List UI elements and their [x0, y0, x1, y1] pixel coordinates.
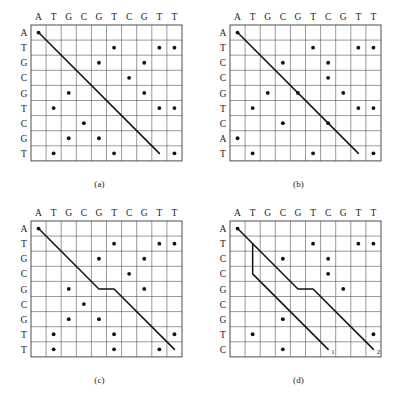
- row-label-b-4: G: [220, 89, 227, 99]
- match-dot: [52, 347, 56, 351]
- row-label-d-8: C: [220, 345, 226, 355]
- column-label-d-7: G: [340, 208, 347, 218]
- match-dot: [251, 106, 255, 110]
- match-dot: [251, 332, 255, 336]
- main-diagonal: [39, 33, 160, 154]
- match-dot: [142, 257, 146, 261]
- match-dot: [112, 46, 116, 50]
- panel-d: ATGCGTCGTTATCCGCGTC12(d): [199, 196, 398, 392]
- match-dot: [157, 106, 161, 110]
- row-label-b-5: T: [220, 104, 226, 114]
- path-end-label-2: 2: [377, 348, 381, 356]
- column-label-b-5: T: [310, 12, 316, 22]
- match-dot: [97, 317, 101, 321]
- column-label-c-2: G: [65, 208, 72, 218]
- row-label-d-3: C: [220, 269, 226, 279]
- match-dot: [173, 151, 177, 155]
- column-label-a-1: T: [51, 12, 57, 22]
- row-label-b-0: A: [220, 28, 227, 38]
- match-dot: [97, 136, 101, 140]
- match-dot: [173, 242, 177, 246]
- column-label-c-8: T: [156, 208, 162, 218]
- column-label-d-1: T: [250, 208, 256, 218]
- match-dot: [127, 76, 131, 80]
- column-label-b-2: G: [264, 12, 271, 22]
- match-dot: [52, 151, 56, 155]
- dotplot-matrix-d: ATGCGTCGTTATCCGCGTC12: [199, 196, 398, 374]
- column-label-c-6: C: [126, 208, 132, 218]
- column-label-b-8: T: [355, 12, 361, 22]
- row-label-d-0: A: [220, 224, 227, 234]
- row-label-c-6: G: [21, 315, 28, 325]
- column-label-b-4: G: [295, 12, 302, 22]
- match-dot: [372, 46, 376, 50]
- match-dot: [97, 61, 101, 65]
- match-dot: [67, 91, 71, 95]
- column-label-d-8: T: [355, 208, 361, 218]
- match-dot: [326, 257, 330, 261]
- match-dot: [52, 106, 56, 110]
- row-label-a-2: G: [21, 58, 28, 68]
- column-label-a-8: T: [156, 12, 162, 22]
- column-label-d-2: G: [264, 208, 271, 218]
- row-label-d-7: T: [220, 330, 226, 340]
- main-diagonal: [238, 33, 359, 154]
- match-dot: [356, 106, 360, 110]
- dotplot-matrix-b: ATGCGTCGTTATCCGTCAT: [199, 0, 398, 178]
- match-dot: [142, 61, 146, 65]
- match-dot: [341, 91, 345, 95]
- match-dot: [281, 121, 285, 125]
- match-dot: [157, 242, 161, 246]
- match-dot: [67, 136, 71, 140]
- match-dot: [266, 91, 270, 95]
- column-label-a-5: T: [111, 12, 117, 22]
- row-label-c-4: G: [21, 285, 28, 295]
- panel-caption-d: (d): [199, 375, 398, 385]
- column-label-a-3: C: [81, 12, 87, 22]
- dotplot-figure: ATGCGTCGTTATGCGTCGT(a)ATGCGTCGTTATCCGTCA…: [0, 0, 398, 393]
- row-label-a-8: T: [21, 149, 27, 159]
- match-dot: [372, 151, 376, 155]
- match-dot: [372, 106, 376, 110]
- match-dot: [281, 347, 285, 351]
- column-label-a-7: G: [141, 12, 148, 22]
- column-label-a-6: C: [126, 12, 132, 22]
- match-dot: [281, 61, 285, 65]
- match-dot: [341, 287, 345, 291]
- match-dot: [112, 332, 116, 336]
- row-label-c-5: C: [21, 300, 27, 310]
- path-end-label-1: 1: [331, 348, 335, 356]
- match-dot: [236, 136, 240, 140]
- column-label-c-3: C: [81, 208, 87, 218]
- match-dot: [82, 302, 86, 306]
- column-label-c-1: T: [51, 208, 57, 218]
- column-label-a-0: A: [35, 12, 42, 22]
- match-dot: [142, 91, 146, 95]
- column-label-a-9: T: [172, 12, 178, 22]
- row-label-a-4: G: [21, 89, 28, 99]
- row-label-a-5: T: [21, 104, 27, 114]
- panel-caption-c: (c): [0, 375, 199, 385]
- column-label-b-0: A: [234, 12, 241, 22]
- row-label-b-6: C: [220, 119, 226, 129]
- row-label-d-2: C: [220, 254, 226, 264]
- row-label-b-3: C: [220, 73, 226, 83]
- match-dot: [67, 317, 71, 321]
- column-label-d-4: G: [295, 208, 302, 218]
- match-dot: [372, 332, 376, 336]
- match-dot: [82, 121, 86, 125]
- column-label-d-0: A: [234, 208, 241, 218]
- row-label-a-6: C: [21, 119, 27, 129]
- column-label-c-5: T: [111, 208, 117, 218]
- match-dot: [311, 242, 315, 246]
- row-label-c-1: T: [21, 239, 27, 249]
- panel-b: ATGCGTCGTTATCCGTCAT(b): [199, 0, 398, 196]
- match-dot: [326, 272, 330, 276]
- match-dot: [112, 242, 116, 246]
- row-label-c-2: G: [21, 254, 28, 264]
- row-label-d-4: G: [220, 285, 227, 295]
- row-label-c-3: C: [21, 269, 27, 279]
- match-dot: [127, 272, 131, 276]
- row-label-b-7: A: [220, 134, 227, 144]
- row-label-d-1: T: [220, 239, 226, 249]
